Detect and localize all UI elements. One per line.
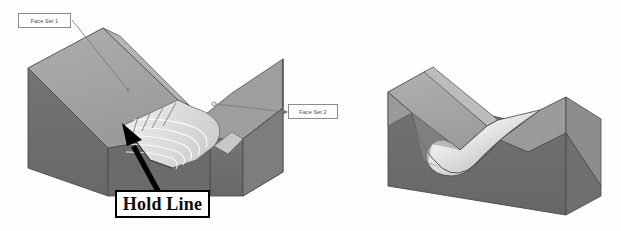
callout-hold-line-label: Hold Line [123, 194, 202, 215]
left-model [28, 28, 283, 196]
right-model [388, 67, 601, 215]
callout-face-set-1[interactable]: Face Set 1 [18, 13, 71, 28]
technical-figure: Face Set 1 Face Set 2 Hold Line [0, 0, 621, 231]
callout-face-set-2-label: Face Set 2 [299, 109, 327, 115]
callout-face-set-1-label: Face Set 1 [31, 18, 59, 24]
callout-hold-line[interactable]: Hold Line [115, 190, 210, 218]
face-set-2-leader-endpoint [212, 102, 216, 106]
callout-face-set-2[interactable]: Face Set 2 [288, 104, 338, 119]
